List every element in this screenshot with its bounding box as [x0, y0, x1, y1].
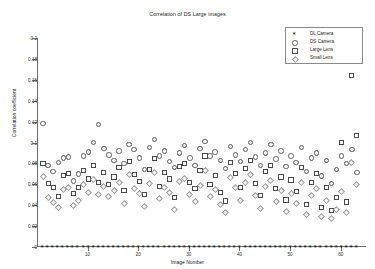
data-point: ∗ — [121, 245, 125, 249]
data-point — [66, 171, 71, 176]
data-point — [121, 200, 128, 207]
data-point — [243, 166, 248, 171]
data-point — [45, 163, 50, 168]
y-tick-label: 0.02 — [7, 224, 37, 229]
data-point — [187, 180, 192, 185]
data-point — [146, 180, 153, 187]
data-point — [111, 158, 116, 163]
data-point — [91, 140, 96, 145]
data-point — [202, 139, 207, 144]
data-point — [314, 171, 319, 176]
data-point — [212, 149, 217, 154]
data-point — [192, 186, 197, 191]
data-point — [227, 174, 234, 181]
data-point — [248, 158, 253, 163]
data-point — [257, 205, 264, 212]
data-point — [308, 192, 315, 199]
legend-item: Large Lens — [286, 46, 362, 54]
data-point: ∗ — [318, 245, 322, 249]
legend-label: DL Camera — [310, 31, 333, 36]
data-point: ∗ — [141, 245, 145, 249]
data-point — [45, 194, 52, 201]
data-point: ∗ — [263, 245, 267, 249]
data-point: ∗ — [227, 245, 231, 249]
data-point — [187, 155, 192, 160]
data-point — [319, 205, 324, 210]
data-point — [40, 161, 45, 166]
data-point — [324, 158, 329, 163]
data-point — [126, 171, 133, 178]
data-point: ∗ — [354, 245, 358, 249]
y-tick-label: 0.18 — [7, 56, 37, 61]
data-point — [65, 184, 72, 191]
legend-label: DS Camera — [310, 39, 334, 44]
x-axis-label: Image Number — [0, 259, 375, 265]
data-point — [242, 179, 249, 186]
chart-legend: ∗DL CameraDS CameraLarge LensSmall Lens — [285, 27, 363, 64]
data-point — [313, 185, 320, 192]
data-point — [152, 156, 157, 161]
y-tick-label: 0.2 — [7, 36, 37, 41]
data-point — [262, 183, 269, 190]
data-point — [56, 160, 61, 165]
data-point — [121, 188, 126, 193]
data-point — [228, 160, 233, 165]
data-point — [273, 186, 278, 191]
data-point — [106, 152, 111, 157]
legend-marker-diamond-icon — [292, 56, 299, 63]
data-point — [288, 190, 295, 197]
data-point — [237, 197, 244, 204]
data-point — [354, 133, 359, 138]
data-point: ∗ — [45, 245, 49, 249]
data-point — [162, 170, 167, 175]
data-point: ∗ — [81, 245, 85, 249]
legend-item: DS Camera — [286, 38, 362, 46]
data-point — [268, 163, 273, 168]
data-point — [70, 202, 77, 209]
data-point: ∗ — [91, 245, 95, 249]
data-point — [105, 193, 112, 200]
data-point: ∗ — [293, 245, 297, 249]
data-point — [283, 164, 288, 169]
data-point — [232, 184, 239, 191]
data-point: ∗ — [344, 245, 348, 249]
data-point — [309, 155, 314, 160]
data-point — [172, 165, 177, 170]
data-point: ∗ — [324, 245, 328, 249]
data-point — [147, 145, 152, 150]
data-point — [323, 197, 330, 204]
data-point — [258, 193, 263, 198]
data-point — [86, 176, 91, 181]
data-point: ∗ — [298, 245, 302, 249]
data-point — [263, 150, 268, 155]
data-point — [283, 208, 290, 215]
data-point: ∗ — [172, 245, 176, 249]
data-point — [298, 179, 305, 186]
data-point — [46, 181, 51, 186]
data-point — [172, 195, 177, 200]
y-tick-label: 0.04 — [7, 203, 37, 208]
legend-item: ∗DL Camera — [286, 30, 362, 38]
data-point — [344, 199, 349, 204]
data-point — [177, 164, 182, 169]
data-point: ∗ — [232, 245, 236, 249]
data-point: ∗ — [283, 245, 287, 249]
data-point — [81, 153, 86, 158]
data-point: ∗ — [308, 245, 312, 249]
data-point — [238, 185, 243, 190]
data-point — [131, 147, 136, 152]
x-tick — [189, 247, 190, 251]
data-point — [233, 171, 238, 176]
data-point — [344, 161, 349, 166]
data-point — [288, 177, 293, 182]
y-axis-label: Correlation coefficient — [11, 63, 17, 163]
data-point — [348, 159, 355, 166]
data-point — [186, 191, 193, 198]
data-point — [156, 195, 163, 202]
data-point — [278, 187, 285, 194]
data-point — [252, 192, 259, 199]
data-point: ∗ — [202, 245, 206, 249]
data-point — [61, 155, 66, 160]
data-point — [207, 193, 214, 200]
x-tick — [290, 247, 291, 251]
